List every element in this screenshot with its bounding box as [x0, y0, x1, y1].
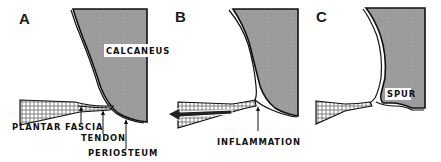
panel-b: B INFLAMMATION	[168, 8, 301, 147]
arrowhead-icon	[124, 119, 128, 124]
panel-letter-a: A	[19, 10, 30, 27]
panel-letter-b: B	[175, 8, 186, 25]
panel-letter-c: C	[316, 8, 327, 25]
panel-c: C SPUR	[316, 8, 425, 124]
panel-a: A CALCANEUS PLANTAR FASCIA TENDON PERIOS…	[12, 9, 170, 158]
calcaneus-bone	[233, 9, 298, 116]
spur-label: SPUR	[387, 89, 416, 99]
heel-spur-diagram: A CALCANEUS PLANTAR FASCIA TENDON PERIOS…	[0, 0, 441, 162]
inflammation-label: INFLAMMATION	[217, 137, 301, 147]
periosteum-label: PERIOSTEUM	[88, 148, 158, 158]
plantar-fascia	[316, 101, 372, 124]
calcaneus-label: CALCANEUS	[106, 46, 170, 56]
plantar-fascia-label: PLANTAR FASCIA	[12, 122, 104, 132]
tendon-label: TENDON	[81, 133, 126, 143]
arrowhead-icon	[256, 106, 260, 111]
